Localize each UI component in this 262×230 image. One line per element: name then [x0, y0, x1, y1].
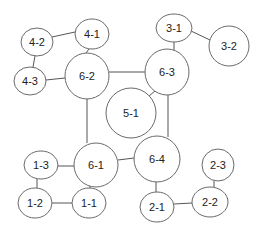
- node-label: 3-1: [166, 22, 182, 34]
- node-label: 6-2: [79, 70, 95, 82]
- node-label: 2-2: [202, 196, 218, 208]
- node-1-1: 1-1: [72, 188, 106, 218]
- node-6-4: 6-4: [134, 136, 180, 182]
- node-label: 1-2: [27, 197, 43, 209]
- node-2-2: 2-2: [192, 187, 228, 217]
- node-label: 4-1: [84, 28, 100, 40]
- node-2-1: 2-1: [140, 192, 174, 222]
- node-label: 6-4: [149, 153, 165, 165]
- node-3-2: 3-2: [209, 26, 249, 66]
- edge-6-3-to-5-1: [149, 91, 155, 96]
- edge-4-3-to-6-2: [46, 78, 65, 80]
- node-3-1: 3-1: [156, 14, 192, 42]
- node-5-1: 5-1: [106, 88, 156, 138]
- edge-6-1-to-6-4: [118, 158, 134, 160]
- node-label: 2-1: [149, 201, 165, 213]
- nodes-layer: 4-24-14-36-23-13-26-35-16-16-41-31-21-12…: [14, 14, 249, 222]
- node-label: 6-3: [159, 66, 175, 78]
- edge-4-2-to-4-3: [33, 56, 35, 67]
- node-label: 3-2: [221, 40, 237, 52]
- node-6-1: 6-1: [74, 143, 118, 187]
- node-4-2: 4-2: [21, 28, 53, 56]
- edge-4-2-to-4-1: [52, 32, 75, 37]
- edge-2-1-to-2-2: [174, 203, 192, 204]
- edge-4-1-to-6-2: [86, 49, 89, 53]
- node-label: 4-3: [22, 75, 38, 87]
- node-6-2: 6-2: [65, 53, 109, 99]
- node-4-3: 4-3: [14, 67, 46, 95]
- node-4-1: 4-1: [75, 19, 109, 49]
- node-label: 5-1: [123, 107, 139, 119]
- node-label: 2-3: [210, 159, 226, 171]
- network-diagram: 4-24-14-36-23-13-26-35-16-16-41-31-21-12…: [0, 0, 262, 230]
- node-label: 1-3: [33, 159, 49, 171]
- edge-3-1-to-3-2: [191, 31, 210, 40]
- node-6-3: 6-3: [145, 49, 189, 95]
- node-label: 4-2: [29, 36, 45, 48]
- node-2-3: 2-3: [202, 149, 234, 181]
- node-1-2: 1-2: [18, 188, 52, 218]
- node-label: 1-1: [81, 197, 97, 209]
- node-1-3: 1-3: [24, 151, 58, 179]
- node-label: 6-1: [88, 159, 104, 171]
